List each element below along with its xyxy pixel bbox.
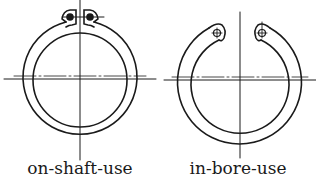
in-bore-caption: in-bore-use [190,158,287,178]
in-bore-ring [164,12,316,158]
on-shaft-caption: on-shaft-use [27,158,132,178]
on-shaft-ring [4,0,156,160]
